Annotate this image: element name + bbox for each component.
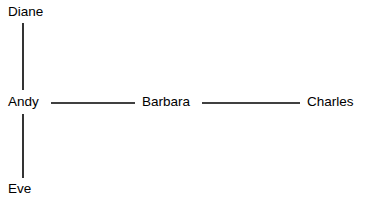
node-label-charles: Charles — [307, 94, 354, 110]
node-label-diane: Diane — [8, 4, 43, 20]
node-label-barbara: Barbara — [142, 94, 190, 110]
node-label-eve: Eve — [8, 181, 31, 197]
node-label-andy: Andy — [8, 94, 39, 110]
graph-diagram: Diane Andy Barbara Charles Eve — [0, 0, 368, 203]
